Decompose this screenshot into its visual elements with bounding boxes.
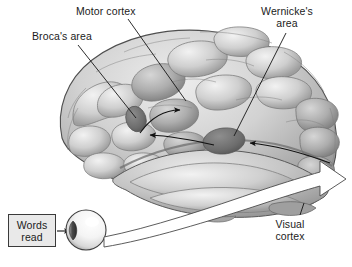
label-motor-cortex: Motor cortex xyxy=(76,5,136,17)
eye-icon xyxy=(66,210,106,250)
words-read-line1: Words xyxy=(17,219,48,231)
label-visual-cortex-line2: cortex xyxy=(262,230,318,242)
words-read-line2: read xyxy=(21,231,42,243)
label-brocas-area: Broca's area xyxy=(32,30,92,42)
label-wernickes-area-line1: Wernicke's xyxy=(258,5,316,17)
label-visual-cortex-line1: Visual xyxy=(262,218,318,230)
label-visual-cortex: Visual cortex xyxy=(262,218,318,242)
label-wernickes-area-line2: area xyxy=(258,17,316,29)
brain-language-pathway-figure: Motor cortex Broca's area Wernicke's are… xyxy=(0,0,352,267)
label-wernickes-area: Wernicke's area xyxy=(258,5,316,29)
words-read-box: Words read xyxy=(8,214,56,247)
